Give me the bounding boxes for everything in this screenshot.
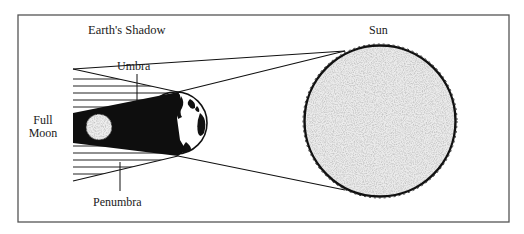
eclipse-diagram: Earth's Shadow Sun Umbra Penumbra Full M… [0, 0, 524, 234]
full-moon-label-line2: Moon [26, 127, 60, 140]
full-moon-label: Full Moon [26, 114, 60, 140]
umbra-label: Umbra [117, 60, 150, 73]
penumbra-label: Penumbra [93, 196, 142, 209]
full-moon-icon [86, 114, 112, 140]
diagram-canvas [0, 0, 524, 234]
sun-icon [303, 44, 457, 198]
sun-label: Sun [369, 24, 388, 37]
diagram-title: Earth's Shadow [88, 24, 166, 37]
